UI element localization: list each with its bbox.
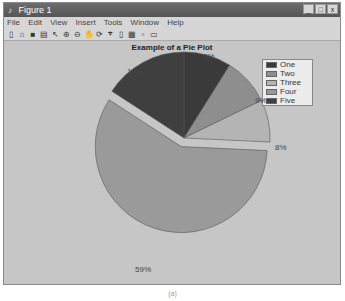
slice-label: 9% <box>255 96 267 105</box>
menu-insert[interactable]: Insert <box>76 18 96 27</box>
legend[interactable]: One Two Three Four Five <box>262 59 313 106</box>
maximize-button[interactable]: □ <box>315 4 326 14</box>
legend-item: Five <box>263 96 312 105</box>
slice-label: 59% <box>135 265 151 274</box>
legend-icon[interactable]: ▦ <box>128 30 136 39</box>
close-button[interactable]: x <box>327 4 338 14</box>
zoom-out-icon[interactable]: ⊖ <box>73 30 81 39</box>
legend-swatch <box>266 98 277 104</box>
toolbar: ▯ ⌂ ■ ▤ ↖ ⊕ ⊖ ✋ ⟳ ⌖ ▯ ▦ ▫ ▭ <box>4 28 340 41</box>
pan-icon[interactable]: ✋ <box>84 30 92 39</box>
menu-edit[interactable]: Edit <box>28 18 42 27</box>
legend-swatch <box>266 71 277 77</box>
legend-item: One <box>263 60 312 69</box>
menu-help[interactable]: Help <box>167 18 183 27</box>
save-icon[interactable]: ■ <box>29 30 37 39</box>
plot-area: Example of a Pie Plot One Two Three Four… <box>4 41 340 284</box>
minimize-button[interactable]: _ <box>303 4 314 14</box>
slice-label: 8% <box>275 143 287 152</box>
print-icon[interactable]: ▤ <box>40 30 48 39</box>
legend-swatch <box>266 62 277 68</box>
legend-item: Two <box>263 69 312 78</box>
legend-swatch <box>266 89 277 95</box>
menu-file[interactable]: File <box>7 18 20 27</box>
menu-window[interactable]: Window <box>131 18 159 27</box>
zoom-in-icon[interactable]: ⊕ <box>62 30 70 39</box>
matlab-icon: ♪ <box>8 4 16 18</box>
pointer-icon[interactable]: ↖ <box>51 30 59 39</box>
slice-label: 16% <box>127 67 143 76</box>
figure-window: ♪ Figure 1 _ □ x File Edit View Insert T… <box>3 2 341 285</box>
colorbar-icon[interactable]: ▯ <box>117 30 125 39</box>
figure-caption: (a) <box>0 290 345 297</box>
open-icon[interactable]: ⌂ <box>18 30 26 39</box>
datacursor-icon[interactable]: ⌖ <box>106 29 114 39</box>
slice-label: 9% <box>203 52 215 61</box>
window-title: Figure 1 <box>19 5 52 15</box>
new-icon[interactable]: ▯ <box>7 30 15 39</box>
legend-swatch <box>266 80 277 86</box>
hide-plot-icon[interactable]: ▫ <box>139 30 147 39</box>
legend-item: Three <box>263 78 312 87</box>
menu-view[interactable]: View <box>50 18 67 27</box>
show-plot-icon[interactable]: ▭ <box>150 30 158 39</box>
title-bar: ♪ Figure 1 _ □ x <box>4 3 340 17</box>
rotate-icon[interactable]: ⟳ <box>95 30 103 39</box>
menu-tools[interactable]: Tools <box>104 18 123 27</box>
legend-item: Four <box>263 87 312 96</box>
menu-bar: File Edit View Insert Tools Window Help <box>4 17 340 28</box>
